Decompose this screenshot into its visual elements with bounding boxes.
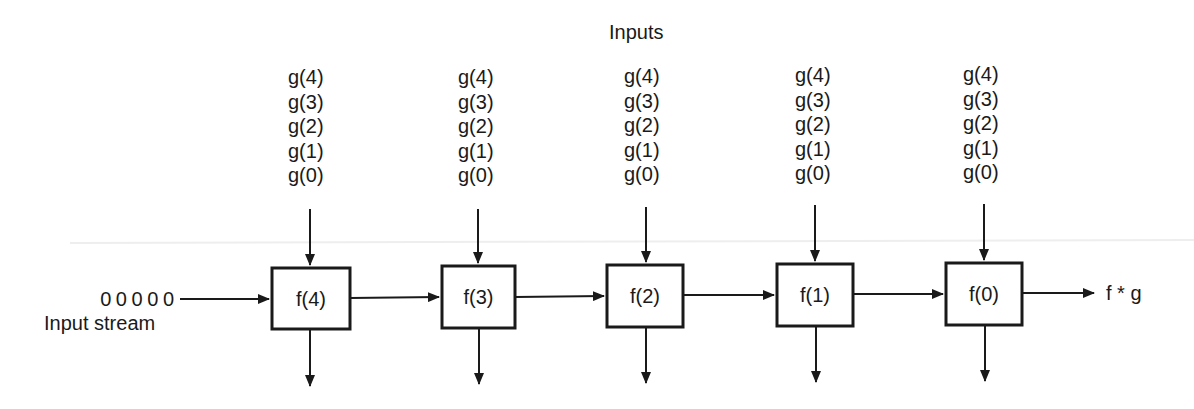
g-inputs-cell-1: g(4)g(3)g(2)g(1)g(0) bbox=[458, 65, 494, 188]
cell-label-f1: f(1) bbox=[777, 283, 853, 307]
cell-label-f4: f(4) bbox=[272, 287, 350, 311]
g-inputs-cell-0: g(4)g(3)g(2)g(1)g(0) bbox=[288, 65, 324, 188]
inputs-title: Inputs bbox=[609, 20, 663, 44]
output-label: f * g bbox=[1106, 281, 1142, 305]
cell-label-f3: f(3) bbox=[442, 285, 515, 309]
g-inputs-cell-3: g(4)g(3)g(2)g(1)g(0) bbox=[795, 63, 831, 186]
cell-label-f2: f(2) bbox=[607, 284, 683, 308]
input-stream-values: 0 0 0 0 0 bbox=[82, 287, 174, 311]
g-inputs-cell-4: g(4)g(3)g(2)g(1)g(0) bbox=[963, 62, 999, 185]
systolic-diagram bbox=[0, 0, 1194, 409]
g-inputs-cell-2: g(4)g(3)g(2)g(1)g(0) bbox=[624, 64, 660, 187]
input-stream-label: Input stream bbox=[44, 311, 155, 335]
cell-label-f0: f(0) bbox=[946, 282, 1022, 306]
